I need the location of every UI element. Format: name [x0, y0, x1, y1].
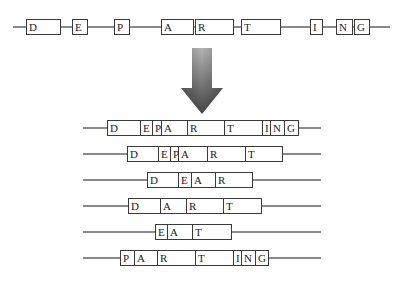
exon-n: N	[270, 120, 285, 136]
exon-g: G	[284, 120, 299, 136]
down-arrow-icon	[180, 46, 224, 116]
exon-d: D	[147, 172, 179, 188]
exon-a: A	[178, 146, 208, 162]
exon-r: R	[157, 250, 196, 266]
exon-r: R	[195, 19, 234, 35]
exon-n: N	[241, 250, 256, 266]
exon-r: R	[187, 120, 225, 136]
exon-g: G	[354, 19, 370, 35]
exon-a: A	[134, 250, 158, 266]
exon-t: T	[245, 146, 283, 162]
exon-d: D	[128, 198, 161, 214]
exon-a: A	[160, 198, 187, 214]
exon-a: A	[167, 224, 193, 240]
exon-t: T	[192, 224, 232, 240]
exon-g: G	[255, 250, 269, 266]
exon-d: D	[26, 19, 61, 35]
exon-p: P	[120, 250, 135, 266]
exon-t: T	[224, 120, 263, 136]
exon-d: D	[127, 146, 159, 162]
exon-r: R	[215, 172, 253, 188]
exon-r: R	[207, 146, 246, 162]
exon-t: T	[241, 19, 281, 35]
exon-d: D	[107, 120, 141, 136]
exon-a: A	[161, 120, 188, 136]
exon-e: E	[72, 19, 88, 35]
exon-i: I	[310, 19, 323, 35]
exon-t: T	[223, 198, 262, 214]
exon-a: A	[161, 19, 194, 35]
exon-a: A	[191, 172, 216, 188]
exon-n: N	[336, 19, 353, 35]
exon-p: P	[114, 19, 130, 35]
exon-r: R	[186, 198, 224, 214]
exon-e: E	[178, 172, 192, 188]
exon-t: T	[195, 250, 234, 266]
